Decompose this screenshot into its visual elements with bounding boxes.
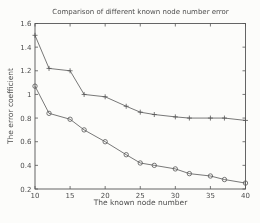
x-tick-label: 25	[136, 192, 145, 200]
y-tick-label: 1.2	[20, 67, 31, 75]
chart-figure: Comparison of different known node numbe…	[0, 0, 260, 223]
x-tick-label: 30	[171, 192, 180, 200]
y-tick-label: 0.6	[20, 138, 32, 146]
y-tick-label: 1.4	[20, 44, 32, 52]
series-circle	[33, 84, 248, 185]
y-tick-label: 1.6	[20, 20, 32, 28]
x-tick-label: 35	[206, 192, 215, 200]
x-tick-label: 10	[31, 192, 40, 200]
series-line-plus	[35, 35, 246, 120]
series-line-circle	[35, 86, 246, 183]
x-tick-label: 15	[66, 192, 75, 200]
plot-area: 101520253035400.20.40.60.811.21.41.6	[0, 0, 260, 223]
series-plus	[33, 33, 249, 123]
y-tick-label: 0.2	[20, 186, 31, 194]
x-tick-label: 20	[101, 192, 110, 200]
x-tick-label: 40	[241, 192, 250, 200]
y-tick-label: 0.8	[20, 115, 31, 123]
y-tick-label: 0.4	[20, 162, 32, 170]
plot-frame	[35, 24, 246, 190]
y-tick-label: 1	[27, 91, 31, 99]
